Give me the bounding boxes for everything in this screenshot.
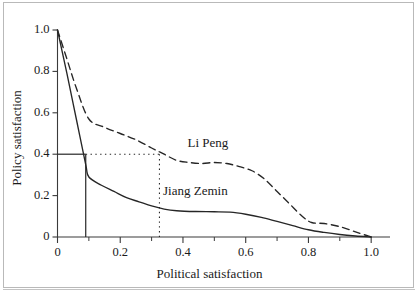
x-axis-tick-label-4: 0.8 (288, 246, 328, 259)
series-label-jiang-zemin: Jiang Zemin (163, 183, 228, 199)
series-curve-jiang-zemin (58, 30, 372, 237)
x-axis-title: Political satisfaction (0, 266, 419, 282)
series-curves-group (58, 30, 372, 237)
x-axis-tick-label-0: 0 (38, 246, 78, 259)
x-axis-tick-label-1: 0.2 (100, 246, 140, 259)
reference-lines-group (58, 154, 160, 237)
y-axis-tick-label-0: 0 (8, 230, 50, 243)
figure-container: 00.20.40.60.81.0 00.20.40.60.81.0 Politi… (0, 0, 419, 303)
y-axis-title: Policy satisfaction (9, 58, 25, 218)
series-curve-li-peng (58, 30, 372, 237)
series-label-li-peng: Li Peng (188, 135, 229, 151)
y-axis-tick-label-5: 1.0 (8, 23, 50, 36)
x-axis-tick-label-5: 1.0 (351, 246, 391, 259)
x-axis-tick-label-2: 0.4 (163, 246, 203, 259)
x-axis-tick-label-3: 0.6 (226, 246, 266, 259)
